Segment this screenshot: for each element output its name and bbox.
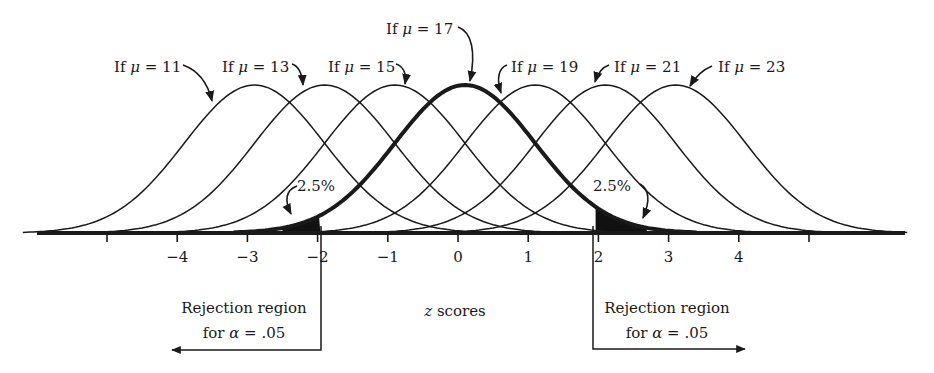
curve-label-mu-19: If μ = 19: [511, 58, 578, 76]
normal-curve-mu-15: [163, 85, 626, 232]
curve-pointer-arrow: [292, 64, 303, 85]
axis-tick-label: −1: [377, 248, 399, 266]
normal-curve-mu-21: [374, 85, 837, 232]
axis-title: z scores: [423, 302, 486, 320]
curve-label-mu-21: If μ = 21: [614, 58, 681, 76]
right-rejection-label-line2: for α = .05: [626, 324, 709, 342]
curve-pointer-arrow: [690, 66, 712, 86]
normal-curve-mu-11: [23, 85, 486, 232]
normal-curve-mu-23: [444, 85, 907, 232]
curve-label-mu-15: If μ = 15: [328, 58, 395, 76]
axis-ticks: −4−3−2−101234: [107, 235, 809, 266]
right-rejection-label-line1: Rejection region: [604, 299, 730, 317]
left-rejection-label-line1: Rejection region: [181, 299, 307, 317]
curve-label-mu-13: If μ = 13: [222, 58, 289, 76]
left-tail-pointer-arrow: [287, 186, 297, 214]
axis-tick-label: 1: [523, 248, 533, 266]
z-score-rejection-diagram: −4−3−2−101234 If μ = 11If μ = 13If μ = 1…: [0, 0, 934, 373]
axis-tick-label: 4: [734, 248, 744, 266]
curve-label-mu-23: If μ = 23: [718, 58, 785, 76]
axis-tick-label: 2: [594, 248, 604, 266]
curve-label-mu-17: If μ = 17: [386, 20, 453, 38]
normal-curve-mu-19: [304, 85, 767, 232]
axis-tick-label: 0: [453, 248, 463, 266]
curve-pointer-arrow: [396, 64, 405, 84]
curve-pointer-arrow: [499, 65, 507, 93]
curve-pointer-arrow: [458, 27, 473, 81]
curve-pointer-arrow: [183, 65, 212, 101]
curve-pointer-arrow: [595, 65, 609, 82]
axis-tick-label: 3: [664, 248, 674, 266]
right-tail-percent: 2.5%: [593, 177, 631, 195]
axis-tick-label: −4: [166, 248, 188, 266]
axis-tick-label: −3: [236, 248, 258, 266]
normal-curves: [23, 85, 908, 232]
normal-curve-mu-13: [93, 85, 556, 232]
left-rejection-label-line2: for α = .05: [203, 324, 286, 342]
curve-label-mu-11: If μ = 11: [114, 58, 181, 76]
normal-curve-mu-17: [233, 85, 696, 232]
axis-tick-label: −2: [307, 248, 329, 266]
left-tail-percent: 2.5%: [297, 177, 335, 195]
